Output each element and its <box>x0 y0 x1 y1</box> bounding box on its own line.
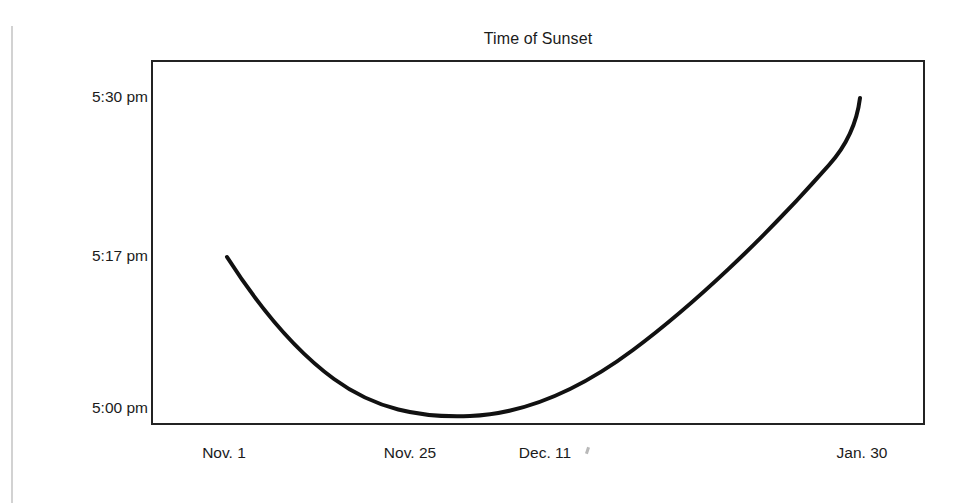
y-axis-tick-labels: 5:30 pm 5:17 pm 5:00 pm <box>0 0 148 503</box>
chart-title: Time of Sunset <box>151 30 925 48</box>
sunset-curve-line <box>227 98 860 416</box>
x-tick-label-2: Dec. 11 <box>519 444 571 462</box>
x-tick-label-1: Nov. 25 <box>384 444 436 462</box>
chart-plot-svg <box>151 60 925 425</box>
y-tick-label-2: 5:00 pm <box>8 399 148 417</box>
x-tick-label-3: Jan. 30 <box>837 444 888 462</box>
y-tick-label-1: 5:17 pm <box>8 247 148 265</box>
y-tick-label-0: 5:30 pm <box>8 88 148 106</box>
scan-speck <box>585 447 590 455</box>
x-tick-label-0: Nov. 1 <box>202 444 246 462</box>
chart-page: Time of Sunset 5:30 pm 5:17 pm 5:00 pm N… <box>0 0 978 503</box>
